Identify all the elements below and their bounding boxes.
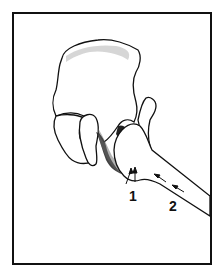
label-2: 2 bbox=[169, 199, 177, 213]
label-1: 1 bbox=[129, 189, 137, 203]
pelvis-femur-illustration bbox=[0, 0, 223, 273]
